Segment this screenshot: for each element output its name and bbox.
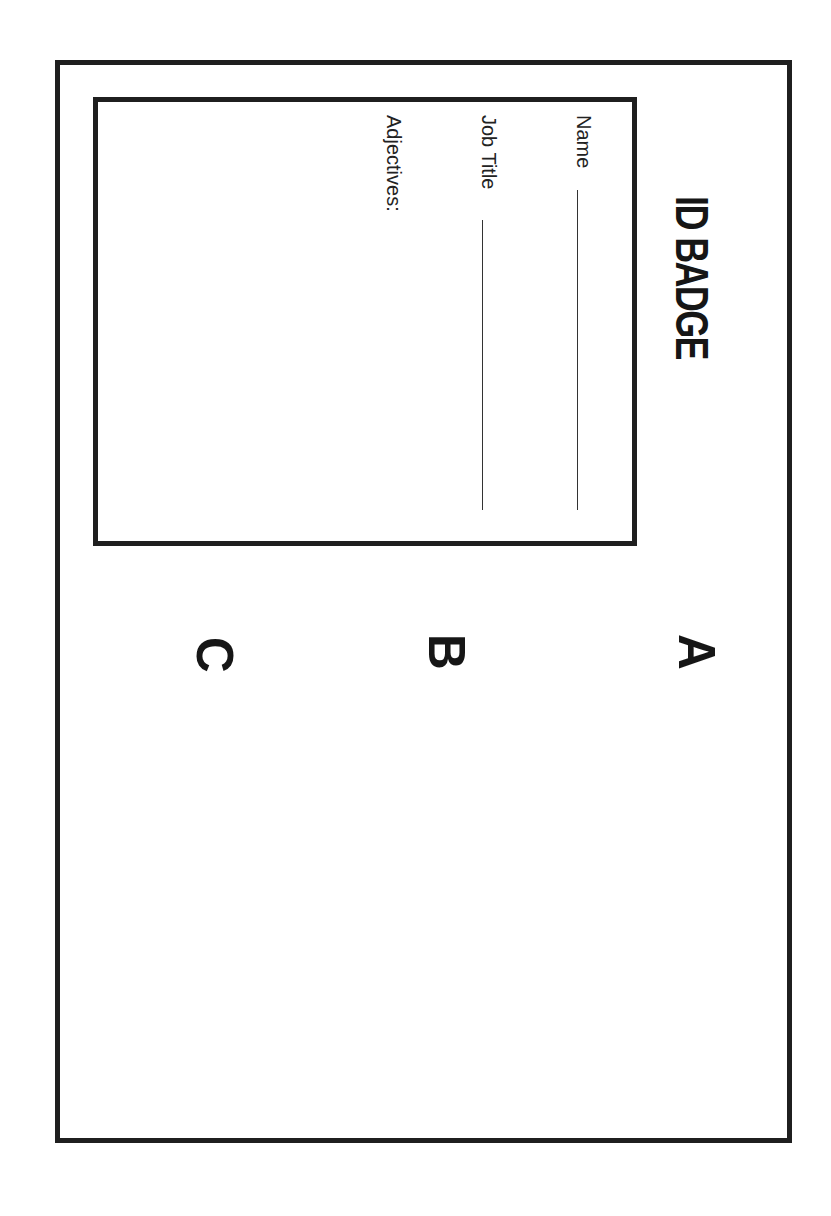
id-badge-worksheet: ID BADGE Name Job Title Adjectives: A B … [0,0,831,1216]
job-title-write-line[interactable] [482,220,483,510]
name-write-line[interactable] [577,190,578,510]
badge-info-box [93,97,637,546]
section-letter-c: C [189,637,241,673]
adjectives-label: Adjectives: [383,115,405,212]
name-label: Name [573,115,595,168]
section-letter-a: A [671,634,723,670]
section-letter-b: B [421,634,473,670]
job-title-label: Job Title [478,115,500,189]
badge-title: ID BADGE [669,196,715,359]
